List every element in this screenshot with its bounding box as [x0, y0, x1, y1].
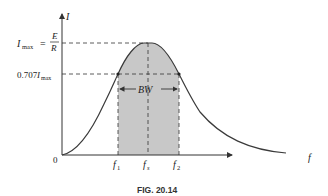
resonance-curve-diagram: BW I f 0 I max = E R 0.707 I max f 1 f s…	[0, 0, 328, 196]
level-0707-label: 0.707 I max	[17, 70, 51, 81]
svg-text:=: =	[40, 38, 46, 49]
bandwidth-shaded-region	[118, 43, 179, 155]
svg-text:1: 1	[117, 164, 120, 171]
fs-label: f s	[143, 159, 150, 171]
svg-text:I: I	[16, 38, 21, 49]
f2-point	[177, 72, 180, 75]
svg-text:max: max	[22, 43, 34, 50]
svg-text:s: s	[147, 164, 150, 171]
f1-point	[116, 72, 119, 75]
figure-caption: FIG. 20.14	[137, 185, 177, 195]
y-axis-label: I	[65, 11, 70, 22]
f2-label: f 2	[173, 159, 180, 171]
svg-text:0.707: 0.707	[17, 70, 38, 80]
origin-label: 0	[53, 155, 58, 165]
f1-label: f 1	[113, 159, 120, 171]
imax-label: I max = E R	[16, 31, 59, 53]
svg-text:R: R	[50, 43, 57, 53]
bw-label: BW	[138, 84, 154, 95]
svg-text:max: max	[41, 75, 51, 81]
x-axis-label: f	[308, 152, 312, 163]
svg-text:E: E	[51, 31, 58, 41]
svg-text:2: 2	[177, 164, 180, 171]
